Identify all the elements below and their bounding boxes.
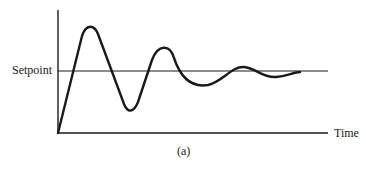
setpoint-label: Setpoint: [12, 64, 52, 76]
time-axis-label: Time: [334, 127, 359, 139]
response-curve: [58, 27, 300, 133]
figure-caption: (a): [177, 145, 190, 157]
